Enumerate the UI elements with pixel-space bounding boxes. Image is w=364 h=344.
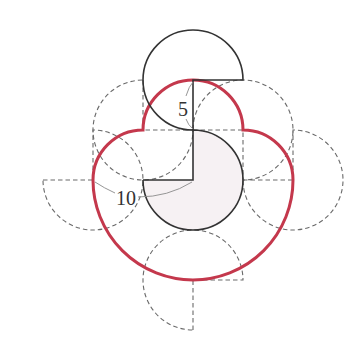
label-small-radius: 5 <box>178 98 188 120</box>
background <box>0 0 364 344</box>
label-large-radius: 10 <box>116 187 136 209</box>
geometry-diagram: 5 10 <box>0 0 364 344</box>
diagram-canvas: 5 10 <box>0 0 364 344</box>
